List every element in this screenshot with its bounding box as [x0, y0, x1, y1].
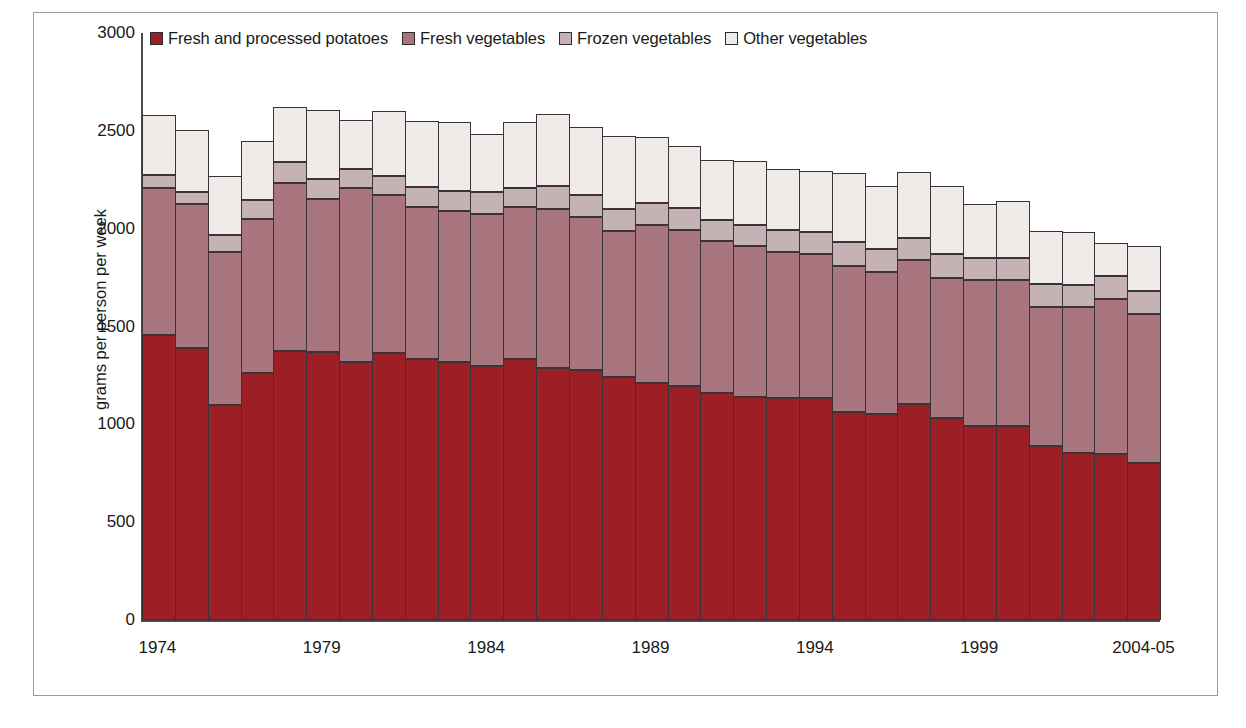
bar-segment-other-vegetables[interactable] — [503, 122, 537, 188]
bar-segment-frozen-vegetables[interactable] — [1062, 285, 1096, 307]
bar-segment-other-vegetables[interactable] — [1029, 231, 1063, 285]
bar-1995[interactable] — [832, 33, 865, 620]
bar-segment-fresh-vegetables[interactable] — [405, 207, 439, 359]
bar-1991[interactable] — [700, 33, 733, 620]
bar-1998[interactable] — [930, 33, 963, 620]
bar-segment-potatoes[interactable] — [1029, 446, 1063, 620]
bar-segment-fresh-vegetables[interactable] — [273, 183, 307, 351]
bar-segment-frozen-vegetables[interactable] — [1127, 291, 1161, 314]
bar-segment-potatoes[interactable] — [832, 412, 866, 620]
bar-segment-other-vegetables[interactable] — [635, 137, 669, 204]
bar-1990[interactable] — [668, 33, 701, 620]
bar-segment-other-vegetables[interactable] — [241, 141, 275, 201]
bar-segment-other-vegetables[interactable] — [1127, 246, 1161, 291]
bar-segment-frozen-vegetables[interactable] — [142, 175, 176, 188]
bar-1981[interactable] — [372, 33, 405, 620]
bar-segment-fresh-vegetables[interactable] — [799, 254, 833, 398]
bar-segment-fresh-vegetables[interactable] — [865, 272, 899, 414]
bar-segment-other-vegetables[interactable] — [569, 127, 603, 195]
bar-segment-other-vegetables[interactable] — [175, 130, 209, 193]
bar-segment-frozen-vegetables[interactable] — [700, 220, 734, 242]
bar-segment-other-vegetables[interactable] — [832, 173, 866, 242]
bar-segment-potatoes[interactable] — [1127, 463, 1161, 620]
bar-segment-potatoes[interactable] — [865, 414, 899, 620]
bar-segment-other-vegetables[interactable] — [930, 186, 964, 254]
bar-segment-other-vegetables[interactable] — [668, 146, 702, 209]
bar-segment-fresh-vegetables[interactable] — [1029, 307, 1063, 446]
bar-segment-other-vegetables[interactable] — [766, 169, 800, 230]
bar-segment-potatoes[interactable] — [405, 359, 439, 620]
bar-segment-fresh-vegetables[interactable] — [470, 214, 504, 366]
bar-segment-potatoes[interactable] — [1062, 453, 1096, 620]
bar-segment-other-vegetables[interactable] — [405, 121, 439, 187]
bar-segment-other-vegetables[interactable] — [700, 160, 734, 220]
bar-segment-fresh-vegetables[interactable] — [142, 188, 176, 336]
bar-segment-other-vegetables[interactable] — [996, 201, 1030, 258]
bar-1975[interactable] — [175, 33, 208, 620]
bar-segment-fresh-vegetables[interactable] — [963, 280, 997, 427]
bar-segment-fresh-vegetables[interactable] — [832, 266, 866, 412]
bar-segment-frozen-vegetables[interactable] — [536, 186, 570, 209]
bar-segment-potatoes[interactable] — [306, 352, 340, 620]
bar-segment-other-vegetables[interactable] — [1094, 243, 1128, 275]
bar-1984[interactable] — [470, 33, 503, 620]
bar-1983[interactable] — [438, 33, 471, 620]
bar-1982[interactable] — [405, 33, 438, 620]
bar-segment-potatoes[interactable] — [1094, 454, 1128, 620]
bar-segment-other-vegetables[interactable] — [142, 115, 176, 175]
bar-segment-fresh-vegetables[interactable] — [897, 260, 931, 404]
bar-segment-frozen-vegetables[interactable] — [208, 235, 242, 253]
bar-1997[interactable] — [897, 33, 930, 620]
bar-1986[interactable] — [536, 33, 569, 620]
bar-segment-potatoes[interactable] — [208, 405, 242, 620]
bar-segment-potatoes[interactable] — [668, 386, 702, 620]
bar-2003[interactable] — [1094, 33, 1127, 620]
bar-segment-other-vegetables[interactable] — [339, 120, 373, 169]
bar-segment-potatoes[interactable] — [372, 353, 406, 620]
bar-segment-other-vegetables[interactable] — [963, 204, 997, 258]
bar-segment-other-vegetables[interactable] — [799, 171, 833, 232]
bar-segment-potatoes[interactable] — [503, 359, 537, 620]
bar-segment-other-vegetables[interactable] — [438, 122, 472, 190]
bar-segment-fresh-vegetables[interactable] — [536, 209, 570, 367]
bar-segment-fresh-vegetables[interactable] — [1062, 307, 1096, 453]
bar-segment-fresh-vegetables[interactable] — [306, 199, 340, 352]
bar-1996[interactable] — [865, 33, 898, 620]
bar-segment-potatoes[interactable] — [996, 426, 1030, 620]
bar-segment-fresh-vegetables[interactable] — [339, 188, 373, 362]
bar-2004-05[interactable] — [1127, 33, 1160, 620]
bar-segment-frozen-vegetables[interactable] — [799, 232, 833, 255]
bar-segment-potatoes[interactable] — [602, 377, 636, 620]
bar-segment-potatoes[interactable] — [142, 335, 176, 620]
bar-segment-frozen-vegetables[interactable] — [897, 238, 931, 260]
bar-segment-frozen-vegetables[interactable] — [405, 187, 439, 208]
bar-1985[interactable] — [503, 33, 536, 620]
bar-segment-other-vegetables[interactable] — [602, 136, 636, 209]
bar-segment-other-vegetables[interactable] — [306, 110, 340, 178]
bar-segment-other-vegetables[interactable] — [897, 172, 931, 239]
bar-segment-frozen-vegetables[interactable] — [438, 191, 472, 212]
bar-segment-potatoes[interactable] — [339, 362, 373, 620]
bar-1977[interactable] — [241, 33, 274, 620]
bar-segment-potatoes[interactable] — [175, 348, 209, 620]
bar-segment-frozen-vegetables[interactable] — [832, 242, 866, 265]
bar-segment-fresh-vegetables[interactable] — [700, 241, 734, 393]
bar-segment-frozen-vegetables[interactable] — [865, 249, 899, 272]
bar-segment-frozen-vegetables[interactable] — [503, 188, 537, 208]
bar-segment-fresh-vegetables[interactable] — [1127, 314, 1161, 464]
bar-segment-other-vegetables[interactable] — [1062, 232, 1096, 286]
bar-segment-frozen-vegetables[interactable] — [635, 203, 669, 225]
bar-segment-fresh-vegetables[interactable] — [602, 231, 636, 378]
bar-segment-other-vegetables[interactable] — [733, 161, 767, 225]
bar-segment-frozen-vegetables[interactable] — [569, 195, 603, 217]
bar-2002[interactable] — [1062, 33, 1095, 620]
bar-segment-frozen-vegetables[interactable] — [996, 258, 1030, 280]
bar-segment-fresh-vegetables[interactable] — [438, 211, 472, 362]
bar-segment-potatoes[interactable] — [635, 383, 669, 620]
bar-segment-potatoes[interactable] — [700, 393, 734, 620]
bar-segment-potatoes[interactable] — [438, 362, 472, 620]
bar-segment-potatoes[interactable] — [930, 418, 964, 620]
bar-segment-fresh-vegetables[interactable] — [569, 217, 603, 370]
bar-segment-fresh-vegetables[interactable] — [503, 207, 537, 359]
bar-segment-potatoes[interactable] — [470, 366, 504, 620]
